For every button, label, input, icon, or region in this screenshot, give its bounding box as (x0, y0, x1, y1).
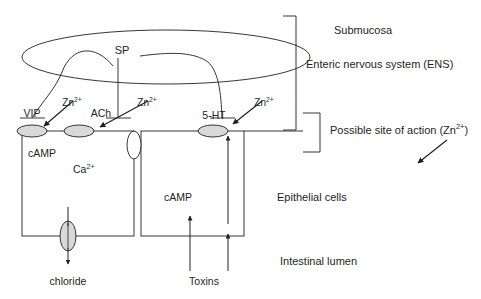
bracket-submucosa (283, 16, 296, 130)
calcium-charge: 2+ (86, 163, 94, 171)
label-intestinal-lumen: Intestinal lumen (280, 256, 357, 267)
bracket-site-of-action (303, 113, 320, 152)
zinc-symbol-ach: Zn (137, 97, 149, 108)
receptor-ach (64, 125, 94, 137)
receptor-vip (17, 125, 47, 137)
label-substance-p: SP (115, 45, 130, 56)
receptor-5ht (198, 125, 228, 137)
label-chloride: chloride (50, 276, 87, 287)
label-camp-left-cell: cAMP (28, 148, 56, 159)
label-receptor-5ht: 5-HT (202, 110, 225, 121)
label-zinc-vip: Zn2+ (62, 98, 81, 108)
label-zinc-ach: Zn2+ (137, 98, 156, 108)
label-receptor-ach: ACh (91, 108, 111, 119)
label-possible-site-of-action: Possible site of action (Zn2+) (330, 125, 468, 136)
label-toxins: Toxins (189, 276, 219, 287)
figure-canvas: SP VIP ACh 5-HT Zn2+ Zn2+ Zn2+ cAMP Ca2+… (0, 0, 481, 299)
zinc-charge-5ht: 2+ (266, 96, 274, 103)
label-enteric-nervous-system: Enteric nervous system (ENS) (306, 59, 453, 70)
label-receptor-vip: VIP (24, 108, 41, 119)
calcium-symbol: Ca (73, 163, 86, 175)
zinc-symbol-5ht: Zn (254, 97, 266, 108)
label-epithelial-cells: Epithelial cells (277, 192, 347, 203)
label-zinc-5ht: Zn2+ (254, 98, 273, 108)
diagram-vector-layer (0, 0, 481, 299)
epithelial-cell-right (141, 131, 244, 236)
zinc-symbol-vip: Zn (62, 97, 74, 108)
ens-ellipse (22, 30, 310, 84)
site-of-action-paren: ) (464, 124, 468, 136)
label-calcium: Ca2+ (73, 164, 95, 175)
site-of-action-pointer-arrow (418, 140, 447, 163)
label-submucosa: Submucosa (334, 25, 392, 36)
label-camp-right-cell: cAMP (164, 192, 192, 203)
zinc-charge-ach: 2+ (149, 96, 157, 103)
site-of-action-text: Possible site of action (Zn (330, 124, 456, 136)
zinc-charge-vip: 2+ (74, 96, 82, 103)
tight-junction-ellipse (127, 131, 141, 159)
